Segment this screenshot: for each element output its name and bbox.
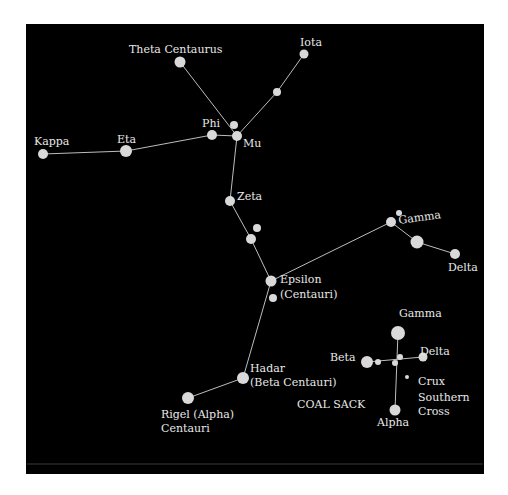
label-phi: Phi [202, 117, 220, 130]
label-delta-centauri: Delta [448, 261, 478, 274]
label-crux-southern: Southern [418, 391, 470, 404]
star-epsilon [266, 276, 277, 287]
star-zeta-small-a [253, 224, 261, 232]
label-zeta: Zeta [237, 190, 263, 203]
label-rigel-sub: Centauri [161, 422, 210, 435]
star-crux-alpha [390, 405, 401, 416]
star-epsilon-small [269, 294, 277, 302]
star-zeta [225, 196, 235, 206]
label-hadar-sub: (Beta Centauri) [250, 376, 337, 389]
star-rigel [182, 392, 194, 404]
label-crux-alpha: Alpha [376, 416, 410, 429]
star-crux-center-a [397, 354, 403, 360]
label-rigel: Rigel (Alpha) [161, 408, 234, 421]
star-phi [207, 130, 217, 140]
label-epsilon-sub: (Centauri) [280, 288, 337, 301]
star-crux-epsilon [405, 375, 409, 379]
star-gamma-centauri [386, 217, 396, 227]
star-iota-mu-mid [273, 88, 281, 96]
label-crux-delta: Delta [420, 345, 450, 358]
star-mu-upper-small [230, 121, 238, 129]
star-mu [232, 131, 242, 141]
star-iota [300, 50, 309, 59]
star-crux-gamma [391, 326, 405, 340]
label-hadar: Hadar [250, 362, 286, 375]
star-crux-center-b [392, 360, 398, 366]
star-kappa [38, 149, 48, 159]
star-hadar [237, 372, 249, 384]
star-crux-beta-small [375, 359, 381, 365]
label-theta-centaurus: Theta Centaurus [129, 43, 223, 56]
star-gamma-delta-mid [411, 236, 424, 249]
label-coal-sack: COAL SACK [297, 398, 366, 411]
label-eta: Eta [117, 133, 136, 146]
label-crux-cross: Cross [418, 405, 450, 418]
label-crux-beta: Beta [330, 351, 356, 364]
star-chart: Theta Centaurus Iota Phi Mu Kappa Eta Ze… [0, 0, 508, 495]
label-kappa: Kappa [34, 135, 70, 148]
label-crux-gamma: Gamma [399, 307, 442, 320]
label-crux: Crux [418, 375, 446, 388]
star-delta-centauri [450, 249, 460, 259]
label-iota: Iota [300, 36, 322, 49]
sky-panel [26, 24, 484, 474]
label-epsilon: Epsilon [280, 273, 321, 286]
star-theta-centaurus [175, 57, 186, 68]
label-mu: Mu [243, 137, 261, 150]
star-eta [120, 145, 132, 157]
star-crux-beta [361, 356, 373, 368]
star-zeta-small-b [246, 234, 256, 244]
